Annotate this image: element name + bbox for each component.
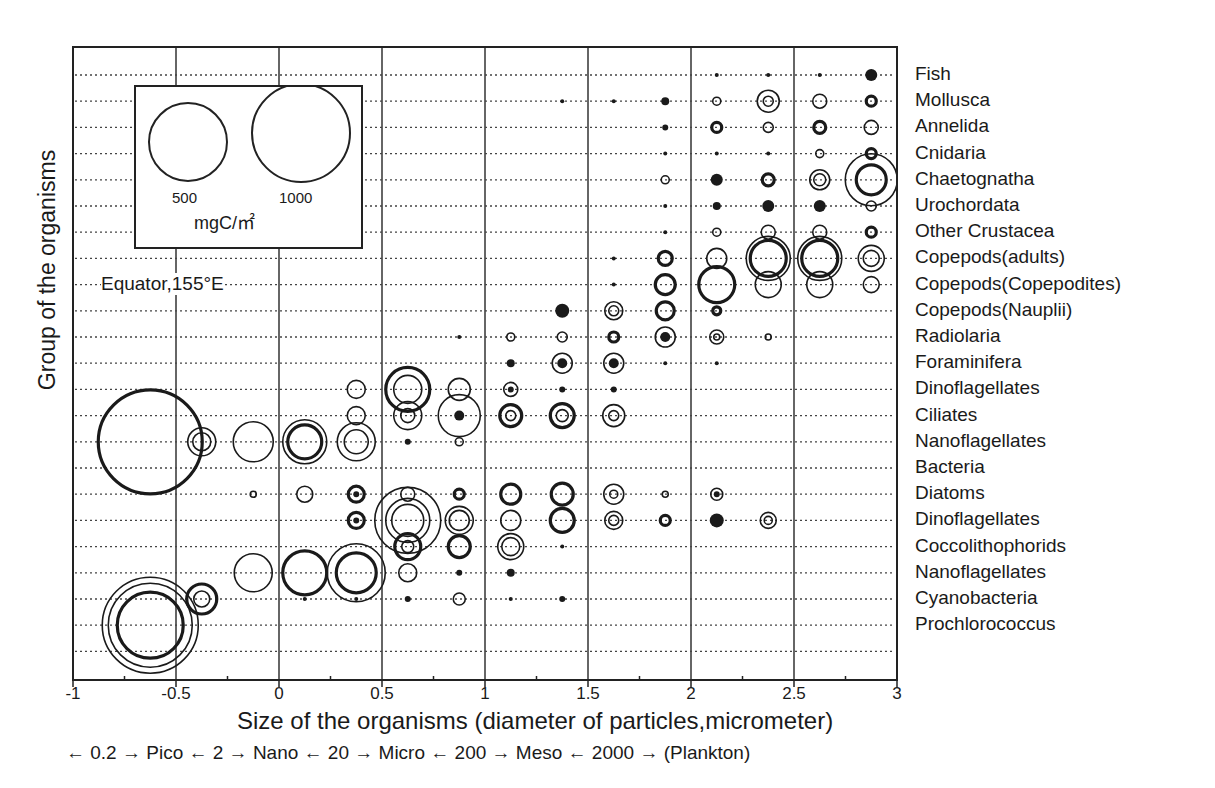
category-label: Copepods(Copepodites) (915, 274, 1121, 294)
bubble (766, 152, 770, 156)
x-tick-label: 1 (480, 684, 489, 704)
bubble (454, 489, 464, 499)
x-tick-label: 2.5 (782, 684, 806, 704)
bubble (560, 99, 564, 103)
bubble (233, 422, 273, 462)
bubble (551, 483, 573, 505)
legend-label-1000: 1000 (279, 189, 312, 206)
bubble (557, 358, 567, 368)
bubble (766, 73, 770, 77)
bubble (713, 202, 721, 210)
category-label: Cnidaria (915, 143, 986, 163)
bubble (353, 491, 359, 497)
category-label: Ciliates (915, 405, 977, 425)
bubble (457, 335, 461, 339)
x-tick-label: 0 (274, 684, 283, 704)
bubble (507, 359, 515, 367)
bubble (814, 200, 826, 212)
bubble (661, 97, 669, 105)
bubble (612, 283, 616, 287)
bubble (609, 332, 619, 342)
bubble (509, 597, 513, 601)
bubble (663, 230, 667, 234)
category-label: Fish (915, 64, 951, 84)
category-label: Dinoflagellates (915, 509, 1040, 529)
category-label: Foraminifera (915, 352, 1022, 372)
size-legend: 500 1000 mgC/㎡ (134, 85, 363, 249)
bubble (715, 361, 719, 365)
category-label: Cyanobacteria (915, 588, 1038, 608)
x-tick-label: 0.5 (370, 684, 394, 704)
bubble (715, 152, 719, 156)
bubble (663, 361, 667, 365)
x-axis-title: Size of the organisms (diameter of parti… (237, 707, 833, 735)
bubble (714, 491, 720, 497)
x-tick-label: 2 (686, 684, 695, 704)
station-annotation: Equator,155°E (101, 273, 224, 295)
bubble (611, 386, 617, 392)
bubble (405, 596, 411, 602)
bubble (303, 597, 307, 601)
bubble (865, 69, 877, 81)
bubble (559, 596, 565, 602)
size-class-scale: ← 0.2 → Pico ← 2 → Nano ← 20 → Micro ← 2… (66, 742, 750, 764)
bubble (405, 439, 411, 445)
category-label: Bacteria (915, 457, 985, 477)
x-tick-label: 1.5 (576, 684, 600, 704)
bubble (746, 236, 790, 280)
legend-label-500: 500 (172, 189, 197, 206)
bubble (507, 569, 515, 577)
legend-circle-1000 (252, 87, 350, 182)
bubble (662, 124, 668, 130)
bubble (612, 256, 616, 260)
bubble (663, 204, 667, 208)
category-label: Radiolaria (915, 326, 1001, 346)
category-label: Mollusca (915, 90, 990, 110)
category-label: Annelida (915, 116, 989, 136)
bubble (555, 304, 569, 318)
x-tick-label: -1 (65, 684, 80, 704)
category-label: Chaetognatha (915, 169, 1034, 189)
bubble (813, 94, 827, 108)
category-label: Other Crustacea (915, 221, 1054, 241)
legend-circle-500 (149, 103, 227, 181)
x-tick-label: 3 (892, 684, 901, 704)
category-label: Diatoms (915, 483, 985, 503)
bubble (394, 375, 422, 403)
bubble (386, 367, 430, 411)
bubble (560, 545, 564, 549)
bubble (663, 152, 667, 156)
bubble (454, 411, 464, 421)
category-label: Urochordata (915, 195, 1020, 215)
bubble (353, 517, 359, 523)
bubble (612, 99, 616, 103)
bubble (559, 386, 565, 392)
bubble (609, 358, 619, 368)
x-tick-label: -0.5 (161, 684, 190, 704)
category-label: Nanoflagellates (915, 431, 1046, 451)
bubble (760, 512, 776, 528)
y-axis-title: Group of the organisms (34, 150, 61, 390)
bubble (354, 597, 358, 601)
category-label: Nanoflagellates (915, 562, 1046, 582)
bubble (715, 73, 719, 77)
bubble (818, 73, 822, 77)
bubble (762, 200, 774, 212)
category-label: Dinoflagellates (915, 378, 1040, 398)
bubble (660, 332, 670, 342)
category-label: Copepods(adults) (915, 247, 1065, 267)
category-label: Copepods(Nauplii) (915, 300, 1072, 320)
bubble (394, 402, 422, 430)
bubble (508, 386, 514, 392)
category-label: Prochlorococcus (915, 614, 1055, 634)
bubble (711, 174, 723, 186)
category-label: Coccolithophorids (915, 536, 1066, 556)
bubble (710, 513, 724, 527)
bubble (456, 570, 462, 576)
legend-unit: mgC/㎡ (194, 208, 255, 234)
bubble (762, 174, 774, 186)
